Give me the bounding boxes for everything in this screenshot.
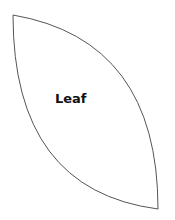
diagram-canvas: Leaf [0, 0, 175, 220]
leaf-shape[interactable] [0, 0, 175, 220]
leaf-label: Leaf [55, 92, 87, 105]
leaf-outline[interactable] [13, 15, 158, 209]
